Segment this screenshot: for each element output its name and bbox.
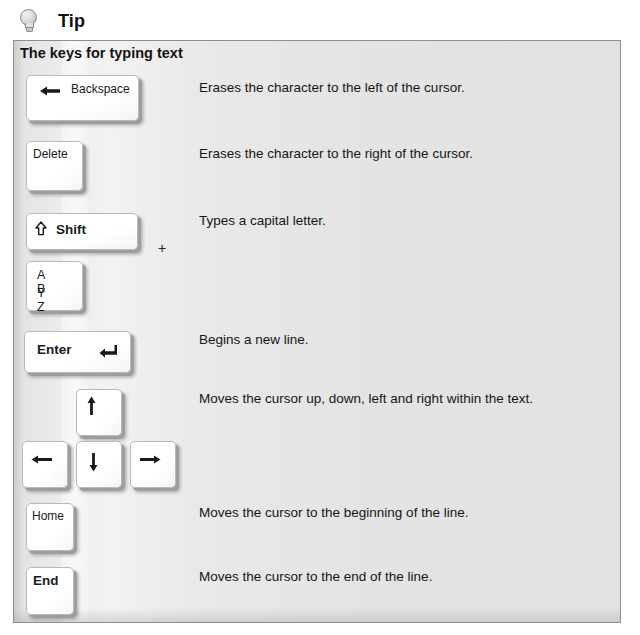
key-enter[interactable]: Enter (24, 331, 131, 373)
key-shift-label: Shift (56, 223, 86, 237)
description-enter: Begins a new line. (199, 332, 309, 348)
key-backspace[interactable]: Backspace (26, 75, 139, 121)
lightbulb-icon (18, 8, 40, 34)
description-arrows: Moves the cursor up, down, left and righ… (199, 391, 533, 407)
key-delete-label: Delete (33, 147, 68, 161)
key-letters[interactable]: A B Y Z (26, 261, 83, 311)
description-delete: Erases the character to the right of the… (199, 146, 473, 162)
tip-header: Tip (14, 2, 314, 40)
key-arrow-right[interactable] (130, 441, 176, 488)
panel-bottom-shade (14, 608, 621, 622)
tip-title: Tip (58, 11, 85, 32)
down-arrow-icon (88, 452, 99, 472)
key-delete[interactable]: Delete (26, 141, 83, 191)
description-home: Moves the cursor to the beginning of the… (199, 505, 468, 521)
tip-panel: The keys for typing text Backspace Delet… (13, 40, 621, 623)
panel-left-shade (14, 41, 24, 623)
key-letters-line2: Y Z (37, 286, 82, 314)
tip-page: Tip The keys for typing text Backspace D… (0, 0, 640, 635)
description-backspace: Erases the character to the left of the … (199, 80, 465, 96)
panel-heading: The keys for typing text (20, 45, 183, 61)
key-enter-label: Enter (37, 343, 72, 357)
key-shift[interactable]: Shift (26, 213, 138, 250)
key-home[interactable]: Home (26, 503, 74, 551)
lightbulb-base (26, 28, 33, 32)
description-shift: Types a capital letter. (199, 213, 326, 229)
up-arrow-icon (86, 396, 97, 416)
right-arrow-icon (139, 454, 161, 465)
key-arrow-up[interactable] (76, 389, 122, 436)
left-arrow-icon (31, 454, 53, 465)
shift-up-arrow-icon (35, 221, 47, 236)
key-arrow-down[interactable] (76, 441, 122, 488)
key-backspace-label: Backspace (71, 82, 130, 96)
return-arrow-icon (98, 344, 118, 358)
description-end: Moves the cursor to the end of the line. (199, 569, 432, 585)
key-end-label: End (33, 574, 59, 588)
key-end[interactable]: End (26, 567, 74, 615)
key-home-label: Home (32, 509, 64, 523)
left-arrow-icon (39, 85, 61, 97)
plus-separator: + (158, 241, 166, 255)
key-arrow-left[interactable] (22, 441, 68, 488)
